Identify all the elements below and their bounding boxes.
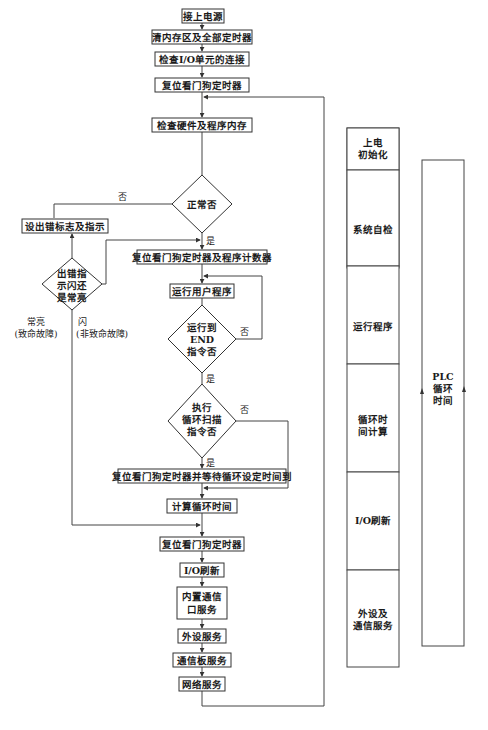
- step-check-io: 检查I/O单元的连接: [155, 52, 249, 66]
- svg-text:运行到: 运行到: [187, 322, 217, 333]
- svg-text:网络服务: 网络服务: [182, 679, 222, 690]
- svg-text:外设服务: 外设服务: [181, 631, 222, 642]
- plc-flowchart: 接上电源 清内存区及全部定时器 检查I/O单元的连接 复位看门狗定时器 检查硬件…: [0, 0, 488, 730]
- svg-text:循环扫描: 循环扫描: [182, 414, 222, 425]
- step-run-user-program: 运行用户程序: [170, 284, 234, 298]
- step-reset-watchdog-2: 复位看门狗定时器: [160, 537, 244, 551]
- svg-text:出错指: 出错指: [57, 268, 87, 279]
- label-no-normal: 否: [118, 192, 127, 202]
- svg-text:循环: 循环: [433, 383, 453, 394]
- svg-text:END: END: [190, 334, 214, 345]
- decision-error-blink: 出错指 示闪还 是常亮: [42, 258, 102, 310]
- phase-cycle-time-calc: 循环时 间计算: [358, 414, 388, 437]
- svg-text:循环时: 循环时: [358, 414, 388, 425]
- step-io-refresh: I/O刷新: [180, 563, 224, 577]
- step-error-flag: 设出错标志及指示: [22, 219, 108, 233]
- svg-text:指令否: 指令否: [187, 346, 217, 357]
- phase-run-program: 运行程序: [353, 321, 393, 332]
- phase-peripheral-comm: 外设及 通信服务: [353, 608, 393, 631]
- step-comm-board-service: 通信板服务: [173, 653, 231, 667]
- svg-text:时间: 时间: [433, 395, 453, 406]
- step-reset-watchdog-pc: 复位看门狗定时器及程序计数器: [131, 250, 272, 264]
- label-yes-scan: 是: [206, 458, 215, 468]
- svg-text:外设及: 外设及: [357, 608, 388, 619]
- label-blink-nonfatal: (非致命故障): [76, 328, 128, 339]
- svg-text:通信服务: 通信服务: [353, 620, 393, 631]
- svg-text:系统自检: 系统自检: [353, 224, 393, 235]
- step-peripheral-service: 外设服务: [178, 629, 226, 643]
- svg-text:正常否: 正常否: [187, 199, 217, 210]
- svg-text:I/O刷新: I/O刷新: [184, 565, 220, 576]
- step-reset-wait-cycle: 复位看门狗定时器并等待循环设定时间到: [111, 469, 292, 483]
- svg-text:通信板服务: 通信板服务: [177, 655, 227, 666]
- svg-text:清内存区及全部定时器: 清内存区及全部定时器: [152, 32, 252, 43]
- label-blink: 闪: [78, 317, 87, 327]
- step-network-service: 网络服务: [179, 677, 225, 691]
- decision-normal: 正常否: [172, 175, 232, 233]
- step-reset-watchdog-1: 复位看门狗定时器: [155, 78, 249, 92]
- svg-text:运行程序: 运行程序: [353, 321, 393, 332]
- svg-text:检查硬件及程序内存: 检查硬件及程序内存: [157, 120, 247, 131]
- svg-text:复位看门狗定时器并等待循环设定时间到: 复位看门狗定时器并等待循环设定时间到: [111, 471, 292, 482]
- svg-text:指令否: 指令否: [187, 426, 217, 437]
- svg-text:初始化: 初始化: [358, 149, 388, 160]
- svg-text:计算循环时间: 计算循环时间: [172, 501, 232, 512]
- step-calc-cycle-time: 计算循环时间: [167, 499, 237, 513]
- svg-text:接上电源: 接上电源: [183, 11, 223, 22]
- step-clear-memory: 清内存区及全部定时器: [152, 30, 252, 44]
- label-yes-normal: 是: [206, 236, 215, 246]
- svg-text:口服务: 口服务: [187, 604, 217, 615]
- label-no-scan: 否: [240, 405, 249, 415]
- label-steady: 常亮: [27, 316, 45, 327]
- plc-cycle-time-column: PLC 循环 时间: [420, 160, 466, 646]
- phase-io-refresh: I/O刷新: [355, 515, 391, 526]
- svg-text:复位看门狗定时器: 复位看门狗定时器: [161, 539, 242, 550]
- svg-text:间计算: 间计算: [358, 426, 388, 437]
- step-power-on: 接上电源: [182, 9, 224, 23]
- svg-text:上电: 上电: [363, 137, 383, 148]
- phase-self-check: 系统自检: [353, 224, 393, 235]
- svg-text:检查I/O单元的连接: 检查I/O单元的连接: [159, 54, 245, 65]
- decision-run-to-end: 运行到 END 指令否: [168, 305, 236, 373]
- svg-text:是常亮: 是常亮: [56, 292, 87, 303]
- svg-text:执行: 执行: [192, 402, 212, 413]
- step-builtin-comm: 内置通信 口服务: [177, 587, 227, 619]
- phase-column: 上电 初始化 系统自检 运行程序 循环时 间计算 I/O刷新 外设及 通信服务: [347, 128, 399, 667]
- svg-text:PLC: PLC: [432, 371, 454, 382]
- svg-text:示闪还: 示闪还: [57, 280, 87, 291]
- svg-text:复位看门狗定时器及程序计数器: 复位看门狗定时器及程序计数器: [131, 252, 272, 263]
- step-check-hardware: 检查硬件及程序内存: [152, 118, 252, 132]
- svg-text:复位看门狗定时器: 复位看门狗定时器: [161, 80, 242, 91]
- svg-text:内置通信: 内置通信: [182, 591, 222, 602]
- label-yes-end: 是: [206, 374, 215, 384]
- label-steady-fatal: (致命故障): [14, 328, 57, 339]
- label-no-end: 否: [240, 327, 249, 337]
- svg-text:运行用户程序: 运行用户程序: [172, 286, 232, 297]
- svg-text:设出错标志及指示: 设出错标志及指示: [25, 221, 105, 232]
- svg-text:I/O刷新: I/O刷新: [355, 515, 391, 526]
- decision-cycle-scan: 执行 循环扫描 指令否: [168, 384, 236, 458]
